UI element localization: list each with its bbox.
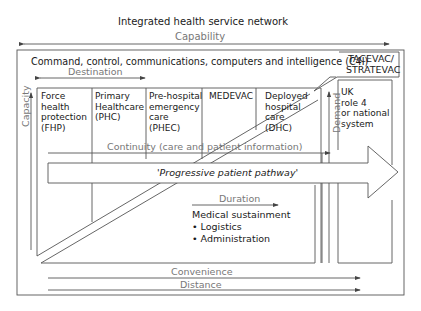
callout-line-1: TACEVAC/ (346, 53, 396, 64)
fhp-line: health (41, 102, 87, 113)
phec-line: care (149, 112, 202, 123)
dhc-line: Deployed (265, 91, 308, 102)
phc-line: (PHC) (95, 112, 144, 123)
convenience-label: Convenience (171, 266, 233, 277)
capability-label: Capability (175, 31, 225, 42)
uk-line: UK (341, 87, 390, 98)
capacity-label: Capacity (20, 85, 31, 127)
uk-role4-box: UK role 4 or national system (341, 87, 390, 129)
column-fhp: Force health protection (FHP) (41, 91, 87, 133)
destination-label: Destination (68, 66, 123, 77)
dhc-line: hospital (265, 102, 308, 113)
phec-line: Pre-hospital (149, 91, 202, 102)
continuity-label: Continuity (care and patient information… (107, 141, 302, 152)
phc-line: Primary (95, 91, 144, 102)
column-dhc: Deployed hospital care (DHC) (265, 91, 308, 133)
fhp-line: Force (41, 91, 87, 102)
tacevac-callout: TACEVAC/ STRATEVAC (346, 53, 396, 75)
dhc-line: (DHC) (265, 123, 308, 134)
sustainment-item: • Logistics (192, 221, 290, 233)
sustainment-title: Medical sustainment (192, 209, 290, 221)
column-phec: Pre-hospital emergency care (PHEC) (149, 91, 202, 133)
dhc-line: care (265, 112, 308, 123)
uk-line: or national (341, 108, 390, 119)
column-medevac: MEDEVAC (209, 91, 253, 102)
distance-label: Distance (180, 279, 222, 290)
fhp-line: (FHP) (41, 123, 87, 134)
medical-sustainment: Medical sustainment • Logistics • Admini… (192, 209, 290, 245)
phc-line: Healthcare (95, 102, 144, 113)
uk-line: system (341, 119, 390, 130)
uk-line: role 4 (341, 98, 390, 109)
medevac-line: MEDEVAC (209, 91, 253, 102)
pathway-label: 'Progressive patient pathway' (157, 167, 298, 178)
diagram-lines (0, 0, 421, 311)
callout-line-2: STRATEVAC (346, 64, 396, 75)
phec-line: emergency (149, 102, 202, 113)
sustainment-item: • Administration (192, 233, 290, 245)
diagram-title: Integrated health service network (118, 16, 288, 27)
fhp-line: protection (41, 112, 87, 123)
duration-label: Duration (219, 193, 260, 204)
phec-line: (PHEC) (149, 123, 202, 134)
column-phc: Primary Healthcare (PHC) (95, 91, 144, 123)
